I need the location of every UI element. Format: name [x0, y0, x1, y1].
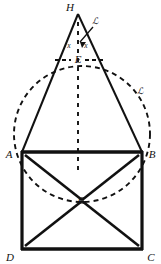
- segment-cg: [82, 201, 139, 246]
- segment-ah: [22, 14, 78, 152]
- vertex-label-b: B: [149, 148, 156, 160]
- circumscribed-circle-dashed: [14, 66, 150, 202]
- vertex-label-c: C: [147, 251, 155, 263]
- vertex-label-e: E: [74, 53, 82, 65]
- figure-canvas: H E A B G D C x x ℒ ℒ: [0, 0, 161, 264]
- apex-script-label: ℒ: [92, 16, 99, 26]
- vertex-label-g: G: [78, 194, 86, 206]
- segment-ag: [25, 155, 82, 200]
- segment-bg: [82, 155, 139, 200]
- vertex-label-a: A: [5, 148, 13, 160]
- arc-script-label: ℒ: [137, 86, 144, 96]
- angle-mark-right-x: x: [83, 41, 88, 50]
- segment-dg: [25, 201, 82, 246]
- geometry-figure: H E A B G D C x x ℒ ℒ: [0, 0, 161, 264]
- apex-pointer-arrow: [80, 27, 93, 42]
- angle-mark-left-x: x: [66, 41, 71, 50]
- vertex-label-d: D: [5, 251, 14, 263]
- vertex-label-h: H: [65, 1, 75, 13]
- segment-bh: [78, 14, 142, 152]
